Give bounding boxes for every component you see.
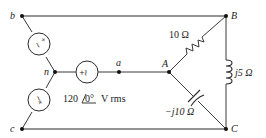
node-n	[53, 70, 57, 74]
node-C	[224, 127, 228, 131]
source-magnitude: 120	[63, 93, 78, 104]
capacitor-plate-1	[188, 90, 200, 102]
node-A	[167, 70, 171, 74]
label-A: A	[161, 58, 169, 69]
impedance-BC-label: j5 Ω	[233, 67, 253, 78]
label-b: b	[10, 10, 15, 21]
impedance-AC-label: −j10 Ω	[165, 106, 194, 117]
label-c: c	[10, 123, 15, 134]
wire-A-cap	[169, 72, 194, 97]
node-c	[20, 127, 24, 131]
wire-cap-C	[198, 101, 226, 129]
node-B	[224, 14, 228, 18]
svg-text:∼: ∼	[81, 69, 91, 77]
node-b	[20, 14, 24, 18]
source-unit: V rms	[101, 93, 126, 104]
source-angle: 0°	[85, 93, 94, 104]
label-a: a	[116, 57, 121, 68]
impedance-AB-label: 10 Ω	[169, 29, 189, 40]
label-C: C	[231, 123, 238, 134]
label-n: n	[44, 66, 49, 77]
source-bn: + ∼	[28, 33, 50, 55]
wire-b-source	[22, 16, 32, 32]
source-cn: + ∼	[28, 89, 50, 111]
wire-A-res	[169, 54, 187, 72]
label-B: B	[231, 10, 237, 21]
node-a	[117, 70, 121, 74]
inductor-BC	[226, 60, 232, 84]
source-an: + ∼	[76, 61, 98, 83]
wire-res-B	[202, 16, 226, 37]
wire-c-source	[22, 112, 32, 129]
circuit-diagram: + ∼ + ∼ + ∼ b n c a A B C 120 0° V	[0, 0, 266, 138]
